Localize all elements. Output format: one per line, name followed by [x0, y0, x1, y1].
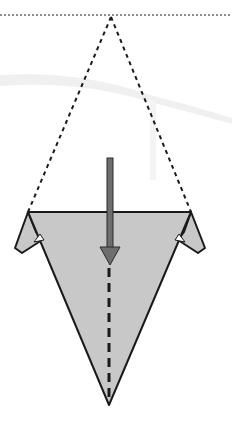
diagram-canvas	[0, 0, 232, 424]
previous-outline-left	[28, 17, 111, 212]
background-smudge	[0, 74, 232, 124]
background-smudge-vertical	[150, 100, 156, 180]
previous-outline-right	[111, 17, 191, 212]
origami-diagram: Origami step: valley fold the shape in h…	[0, 0, 232, 424]
